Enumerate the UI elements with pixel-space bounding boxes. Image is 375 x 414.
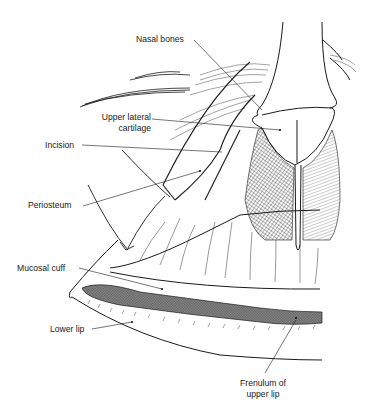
label-upper-lateral-cartilage-line1: Upper lateral: [89, 112, 151, 123]
nasal-lateral-tissue-right: [303, 130, 340, 240]
label-periosteum: Periosteum: [28, 200, 71, 211]
leader-upper-lateral-cartilage: [152, 119, 280, 130]
cheek-hatching: [170, 55, 356, 140]
leader-periosteum: [83, 171, 200, 206]
label-frenulum-line1: Frenulum of: [226, 378, 300, 389]
elevator-instrument: [88, 150, 170, 250]
lip-mucosa: [82, 285, 322, 324]
label-nasal-bones: Nasal bones: [136, 34, 184, 45]
label-frenulum-of-upper-lip: Frenulum of upper lip: [226, 378, 300, 399]
label-incision: Incision: [45, 140, 74, 151]
label-upper-lateral-cartilage-line2: cartilage: [89, 123, 151, 134]
leader-nasal-bones: [194, 40, 262, 110]
label-frenulum-line2: upper lip: [226, 389, 300, 400]
leader-incision: [82, 145, 222, 152]
label-lower-lip: Lower lip: [50, 324, 84, 335]
label-mucosal-cuff: Mucosal cuff: [17, 263, 65, 274]
anatomical-illustration: Nasal bones Upper lateral cartilage Inci…: [0, 0, 375, 414]
label-upper-lateral-cartilage: Upper lateral cartilage: [89, 112, 151, 133]
leader-frenulum: [265, 320, 296, 373]
brow-strokes: [80, 72, 190, 107]
flap-edges: [163, 62, 255, 200]
nasal-lateral-tissue: [245, 128, 294, 240]
